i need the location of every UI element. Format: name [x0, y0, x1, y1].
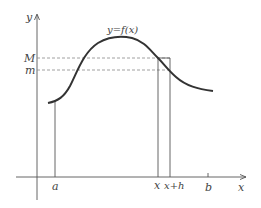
- x-axis: [16, 175, 246, 180]
- curve-label: y=f(x): [106, 24, 138, 35]
- x-axis-label: x: [238, 181, 245, 194]
- tick-label-x: x: [154, 179, 161, 192]
- tick-label-a: a: [52, 180, 59, 193]
- function-diagram: y x M m y=f(x) a x x+h b: [0, 0, 261, 208]
- y-axis: [35, 14, 40, 200]
- tick-label-x-plus-h: x+h: [164, 180, 184, 191]
- min-level-label: m: [25, 64, 35, 77]
- y-axis-label: y: [25, 11, 33, 24]
- tick-label-b: b: [205, 181, 212, 194]
